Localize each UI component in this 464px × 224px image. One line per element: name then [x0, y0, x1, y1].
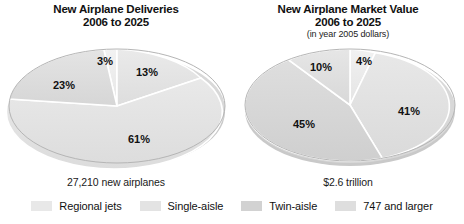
legend-item-747-and-larger[interactable]: 747 and larger	[335, 200, 433, 212]
pie-left: 3% 13% 61% 23%	[0, 0, 232, 198]
legend-item-single-aisle[interactable]: Single-aisle	[140, 200, 224, 212]
pie-right: 4% 41% 45% 10%	[232, 0, 464, 198]
pie-right-label-twin-aisle: 41%	[398, 105, 420, 117]
pie-right-svg: 4% 41% 45% 10%	[232, 0, 464, 198]
pie-right-label-747-and-larger: 4%	[356, 55, 372, 67]
legend-item-regional-jets[interactable]: Regional jets	[31, 200, 121, 212]
legend-swatch-regional-jets-icon	[31, 201, 52, 211]
legend-swatch-747-and-larger-icon	[335, 201, 356, 211]
caption-right: $2.6 trillion	[232, 176, 464, 188]
pie-left-svg: 3% 13% 61% 23%	[0, 0, 232, 198]
legend-swatch-twin-aisle-icon	[241, 201, 262, 211]
pie-left-label-747-and-larger: 3%	[97, 55, 113, 67]
panel-new-airplane-market-value: New Airplane Market Value 2006 to 2025 (…	[232, 0, 464, 198]
caption-left: 27,210 new airplanes	[0, 176, 232, 188]
legend: Regional jets Single-aisle Twin-aisle 74…	[0, 200, 464, 224]
legend-label-regional-jets: Regional jets	[59, 200, 121, 212]
pie-right-label-regional-jets: 10%	[310, 61, 332, 73]
pie-left-label-twin-aisle: 13%	[136, 66, 158, 78]
pie-left-label-regional-jets: 23%	[53, 79, 75, 91]
pie-chart-figure: New Airplane Deliveries 2006 to 2025	[0, 0, 464, 224]
legend-label-twin-aisle: Twin-aisle	[269, 200, 317, 212]
panel-new-airplane-deliveries: New Airplane Deliveries 2006 to 2025	[0, 0, 232, 198]
legend-label-single-aisle: Single-aisle	[168, 200, 224, 212]
pie-right-label-single-aisle: 45%	[293, 118, 315, 130]
legend-item-twin-aisle[interactable]: Twin-aisle	[241, 200, 317, 212]
legend-swatch-single-aisle-icon	[140, 201, 161, 211]
legend-label-747-and-larger: 747 and larger	[363, 200, 433, 212]
pie-left-label-single-aisle: 61%	[128, 133, 150, 145]
